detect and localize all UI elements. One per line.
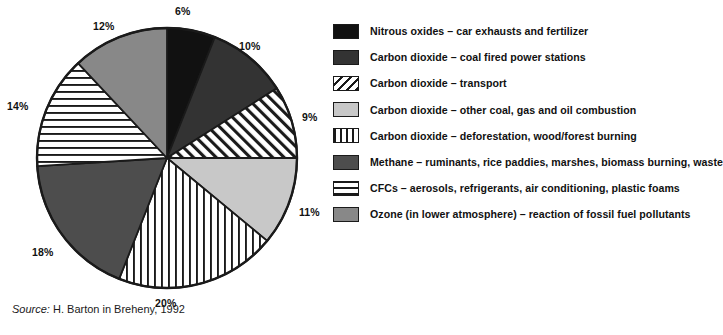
solid-darkgray-swatch [333, 50, 359, 65]
pie-label-cfcs: 14% [7, 100, 28, 112]
pie-label-co2-other-combustion: 11% [299, 206, 320, 218]
legend-item-co2-other-combustion: Carbon dioxide – other coal, gas and oil… [333, 97, 693, 123]
horizontal-stripes-swatch [333, 181, 359, 196]
legend-label-methane: Methane – ruminants, rice paddies, marsh… [370, 156, 723, 168]
legend-item-methane: Methane – ruminants, rice paddies, marsh… [333, 149, 693, 175]
legend-item-co2-transport: Carbon dioxide – transport [333, 70, 693, 96]
legend-item-co2-coal-power: Carbon dioxide – coal fired power statio… [333, 44, 693, 70]
pie-label-co2-transport: 9% [302, 111, 317, 123]
legend-item-nitrous-oxides: Nitrous oxides – car exhausts and fertil… [333, 18, 693, 44]
solid-midgray-swatch [333, 155, 359, 170]
source-prefix: Source: [12, 303, 50, 315]
legend-label-ozone: Ozone (in lower atmosphere) – reaction o… [370, 208, 690, 220]
vertical-stripes-swatch [333, 128, 359, 143]
pie-label-nitrous-oxides: 6% [175, 5, 190, 17]
solid-black-swatch [333, 24, 359, 39]
legend-label-cfcs: CFCs – aerosols, refrigerants, air condi… [370, 182, 680, 194]
solid-lightgray-swatch [333, 102, 359, 117]
diagonal-hatch-swatch [333, 76, 359, 91]
legend-label-co2-other-combustion: Carbon dioxide – other coal, gas and oil… [370, 104, 636, 116]
legend-label-co2-transport: Carbon dioxide – transport [370, 77, 507, 89]
pie-chart-area: 6% 10% 9% 11% 20% 18% 14% 12% [0, 0, 335, 300]
pie-label-ozone: 12% [93, 20, 114, 32]
legend-item-ozone: Ozone (in lower atmosphere) – reaction o… [333, 201, 693, 227]
legend-label-nitrous-oxides: Nitrous oxides – car exhausts and fertil… [370, 25, 588, 37]
pie-slices-group [37, 28, 297, 288]
legend-label-co2-deforestation: Carbon dioxide – deforestation, wood/for… [370, 130, 637, 142]
legend-label-co2-coal-power: Carbon dioxide – coal fired power statio… [370, 51, 586, 63]
solid-gray-swatch [333, 207, 359, 222]
source-caption: Source: H. Barton in Breheny, 1992 [12, 303, 185, 315]
source-text: H. Barton in Breheny, 1992 [53, 303, 185, 315]
chart-legend: Nitrous oxides – car exhausts and fertil… [333, 18, 693, 228]
legend-item-co2-deforestation: Carbon dioxide – deforestation, wood/for… [333, 123, 693, 149]
pie-label-methane: 18% [32, 246, 53, 258]
pie-label-co2-coal-power: 10% [239, 40, 260, 52]
legend-item-cfcs: CFCs – aerosols, refrigerants, air condi… [333, 175, 693, 201]
